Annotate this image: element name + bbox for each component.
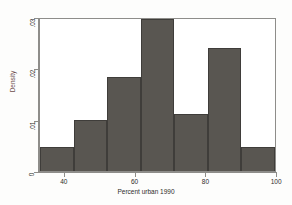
x-tick-mark-60 <box>135 173 136 177</box>
x-tick-label-80: 80 <box>202 178 209 185</box>
x-tick-label-100: 100 <box>271 178 282 185</box>
y-tick-label-0: 0 <box>29 173 36 177</box>
y-tick-label-1: .01 <box>29 121 36 130</box>
x-tick-mark-100 <box>276 173 277 177</box>
histogram-bar <box>141 19 175 171</box>
histogram-bar <box>208 48 242 171</box>
plot-area <box>39 18 276 172</box>
x-tick-mark-40 <box>64 173 65 177</box>
histogram-bar <box>40 147 74 171</box>
y-axis-title: Density <box>9 62 16 102</box>
histogram-bar <box>74 120 108 171</box>
x-tick-label-40: 40 <box>60 178 67 185</box>
x-axis-title: Percent urban 1990 <box>0 188 292 195</box>
histogram-bar <box>241 147 275 171</box>
histogram-bar <box>174 114 208 171</box>
y-tick-label-3: .03 <box>29 19 36 28</box>
x-tick-label-60: 60 <box>131 178 138 185</box>
histogram-bar <box>107 77 141 171</box>
histogram-figure: 0 .01 .02 .03 Density 40 60 80 100 Perce… <box>0 0 292 205</box>
histogram-bars <box>40 19 275 171</box>
y-tick-label-2: .02 <box>29 70 36 79</box>
x-axis-line <box>39 172 277 173</box>
x-tick-mark-80 <box>205 173 206 177</box>
